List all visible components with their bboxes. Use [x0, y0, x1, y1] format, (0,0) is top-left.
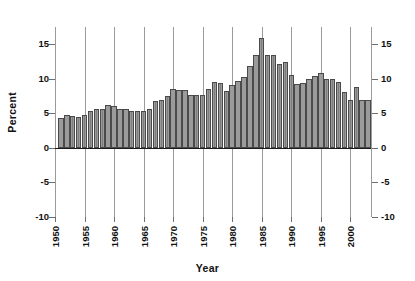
y-tick-label-left: 5 [44, 108, 49, 118]
x-tick-label: 1995 [316, 226, 327, 247]
x-tick-label: 2000 [345, 226, 356, 247]
bar [159, 100, 164, 148]
bar [365, 100, 370, 148]
bar [135, 111, 140, 148]
chart-figure: Percent 151050-5-10 151050-5-10 19501955… [0, 0, 415, 281]
bar [336, 82, 341, 148]
y-tick-label-left: -10 [35, 212, 49, 222]
x-tick-label: 1965 [139, 226, 150, 247]
bar [247, 66, 252, 148]
x-tick [85, 217, 86, 222]
bar-series [55, 27, 371, 217]
x-tick-label: 1955 [80, 226, 91, 247]
x-tick-label: 1975 [198, 226, 209, 247]
x-tick-label: 1980 [227, 226, 238, 247]
y-tick-right [372, 44, 378, 45]
bar [200, 95, 205, 148]
bar [300, 83, 305, 148]
x-tick [291, 217, 292, 222]
bar [194, 95, 199, 148]
bar [235, 81, 240, 148]
bar [283, 62, 288, 148]
zero-baseline [55, 148, 371, 149]
y-tick-label-right: 0 [381, 143, 386, 153]
bar [64, 115, 69, 147]
bar [206, 89, 211, 148]
bar [289, 75, 294, 148]
bar [176, 90, 181, 148]
bar [359, 100, 364, 148]
y-tick-right [372, 79, 378, 80]
bar [218, 83, 223, 148]
x-tick-label: 1970 [168, 226, 179, 247]
y-tick-label-right: -5 [381, 177, 389, 187]
x-tick-label: 1960 [109, 226, 120, 247]
bar [253, 55, 258, 148]
x-tick-label: 1990 [286, 226, 297, 247]
x-axis-title: Year [0, 262, 415, 274]
y-tick-left [49, 79, 55, 80]
y-tick-label-left: 15 [38, 39, 49, 49]
y-tick-right [372, 182, 378, 183]
bar [318, 73, 323, 148]
bar [170, 89, 175, 148]
bar [306, 79, 311, 148]
bar [271, 55, 276, 148]
bar [58, 118, 63, 148]
bar [147, 109, 152, 148]
y-tick-label-left: 0 [44, 143, 49, 153]
bar [117, 109, 122, 148]
bar [100, 109, 105, 148]
bar [82, 115, 87, 148]
y-tick-label-left: 10 [38, 74, 49, 84]
bar [294, 84, 299, 148]
bar [265, 55, 270, 148]
x-tick [144, 217, 145, 222]
x-tick-label: 1985 [257, 226, 268, 247]
bar [123, 109, 128, 148]
bar [70, 116, 75, 148]
y-axis-right-spine [371, 27, 372, 217]
y-tick-label-right: 5 [381, 108, 386, 118]
x-tick [232, 217, 233, 222]
bar [76, 117, 81, 148]
bar [354, 87, 359, 148]
bar [277, 64, 282, 148]
bar [212, 82, 217, 148]
bar [141, 111, 146, 148]
y-tick-label-left: -5 [41, 177, 49, 187]
y-tick-right [372, 113, 378, 114]
bar [105, 105, 110, 148]
bar [348, 100, 353, 148]
bar [88, 111, 93, 148]
bar [153, 101, 158, 148]
bar [111, 106, 116, 148]
x-tick [262, 217, 263, 222]
bar [182, 90, 187, 148]
y-tick-left [49, 148, 55, 149]
bar [229, 85, 234, 148]
bar [312, 76, 317, 148]
x-tick [321, 217, 322, 222]
x-tick [350, 217, 351, 222]
x-tick [173, 217, 174, 222]
y-axis-title: Percent [6, 92, 18, 133]
y-tick-left [49, 44, 55, 45]
y-tick-label-right: 15 [381, 39, 392, 49]
bar [342, 92, 347, 148]
bar [165, 96, 170, 148]
bar [330, 79, 335, 148]
x-tick [114, 217, 115, 222]
x-tick-label: 1950 [50, 226, 61, 247]
x-tick [55, 217, 56, 222]
y-tick-left [49, 113, 55, 114]
bar [324, 79, 329, 148]
y-tick-label-right: 10 [381, 74, 392, 84]
bar [259, 38, 264, 148]
bar [188, 95, 193, 148]
y-tick-right [372, 217, 378, 218]
bar [241, 77, 246, 147]
plot-area [55, 27, 371, 217]
y-tick-label-right: -10 [381, 212, 395, 222]
y-tick-right [372, 148, 378, 149]
